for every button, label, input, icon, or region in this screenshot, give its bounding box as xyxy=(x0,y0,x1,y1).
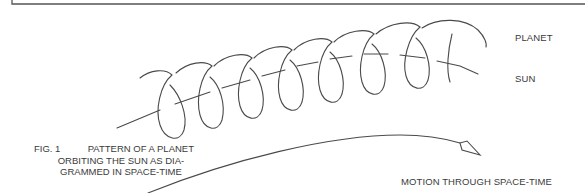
motion-label: MOTION THROUGH SPACE-TIME xyxy=(401,176,552,187)
figure-number: FIG. 1 xyxy=(34,143,60,154)
caption-line-2: ORBITING THE SUN AS DIA- xyxy=(34,155,194,167)
caption-line-1: PATTERN OF A PLANET xyxy=(88,143,194,154)
sun-worldline xyxy=(117,54,478,128)
figure-caption: FIG. 1 PATTERN OF A PLANET ORBITING THE … xyxy=(34,143,194,178)
planet-helix xyxy=(140,20,486,138)
planet-label: PLANET xyxy=(515,32,553,43)
caption-line-3: GRAMMED IN SPACE-TIME xyxy=(34,166,194,178)
motion-arrowhead xyxy=(460,141,480,155)
frame-border xyxy=(12,0,585,4)
sun-label: SUN xyxy=(515,73,535,84)
